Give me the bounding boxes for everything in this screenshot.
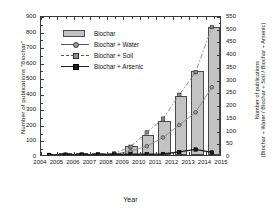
data-point-circle [194,110,198,114]
y-axis-right-minor-tick [219,23,221,24]
x-axis-minor-tick [82,154,83,156]
y-axis-left-tick-label: 800 [6,29,36,35]
y-axis-right-tick [217,17,220,18]
x-axis-tick [173,152,174,155]
y-axis-left-tick-label: 100 [6,137,36,143]
y-axis-left-tick-label: 400 [6,91,36,97]
x-axis-tick [41,152,42,155]
y-axis-right-tick-label: 200 [226,102,256,108]
legend-item-biochar-soil: Biochar + Soil [60,50,143,61]
x-axis-top-tick [123,17,124,20]
y-axis-right-tick-label: 350 [226,64,256,70]
x-axis-top-minor-tick [99,17,100,19]
x-axis-tick [206,152,207,155]
y-axis-left-minor-tick [41,134,43,135]
y-axis-right-tick-label: 150 [226,115,256,121]
y-axis-right-tick [217,68,220,69]
y-axis-left-tick [41,48,44,49]
y-axis-left-tick [41,126,44,127]
y-axis-right-tick [217,55,220,56]
y-axis-left-tick-label: 600 [6,60,36,66]
y-axis-left-minor-tick [41,56,43,57]
y-axis-right-tick [217,42,220,43]
x-axis-top-minor-tick [214,17,215,19]
x-axis-minor-tick [181,154,182,156]
y-axis-right-minor-tick [219,125,221,126]
legend-item-biochar: Biochar [60,28,143,39]
y-axis-right-minor-tick [219,151,221,152]
x-axis-minor-tick [148,154,149,156]
y-axis-right-tick-label: 100 [226,128,256,134]
x-axis-top-tick [189,17,190,20]
y-axis-left-tick-label: 900 [6,13,36,19]
legend-label-biochar-water: Biochar + Water [94,40,139,49]
y-axis-left-tick [41,110,44,111]
data-point-square [210,25,213,28]
x-axis-tick [123,152,124,155]
circle-marker-icon [73,42,79,48]
y-axis-right-minor-tick [219,138,221,139]
data-point-square [161,117,164,120]
chart-figure: Number of publications "Biochar" Number … [0,0,276,217]
y-axis-right-tick-label: 300 [226,77,256,83]
filled-square-marker-icon [73,64,79,70]
y-axis-right-tick-label: 250 [226,89,256,95]
y-axis-right-minor-tick [219,36,221,37]
x-axis-top-tick [156,17,157,20]
data-point-circle [177,123,181,127]
data-point-square [129,145,132,148]
x-axis-minor-tick [99,154,100,156]
x-axis-top-tick [41,17,42,20]
x-axis-top-minor-tick [148,17,149,19]
x-axis-minor-tick [66,154,67,156]
y-axis-left-minor-tick [41,103,43,104]
y-axis-left-tick-label: 300 [6,106,36,112]
y-axis-right-tick [217,144,220,145]
y-axis-left-tick-label: 500 [6,75,36,81]
legend-label-biochar-soil: Biochar + Soil [94,51,133,60]
x-axis-top-minor-tick [132,17,133,19]
x-axis-top-tick [74,17,75,20]
y-axis-left-tick [41,33,44,34]
x-axis-tick [74,152,75,155]
x-axis-top-minor-tick [164,17,165,19]
x-axis-tick [189,152,190,155]
y-axis-right-tick [217,30,220,31]
x-axis-top-tick [90,17,91,20]
x-axis-top-tick [173,17,174,20]
x-axis-top-tick [206,17,207,20]
y-axis-left-minor-tick [41,149,43,150]
x-axis-top-tick [140,17,141,20]
y-axis-left-minor-tick [41,118,43,119]
y-axis-left-tick [41,141,44,142]
y-axis-left-tick [41,79,44,80]
y-axis-left-minor-tick [41,40,43,41]
y-axis-left-tick [41,64,44,65]
y-axis-left-minor-tick [41,25,43,26]
y-axis-right-minor-tick [219,62,221,63]
y-axis-right-tick-label: 550 [226,13,256,19]
legend-key-line-dashdot-square [60,51,90,60]
legend-label-biochar: Biochar [94,29,115,38]
y-axis-right-minor-tick [219,100,221,101]
x-axis-top-minor-tick [181,17,182,19]
y-axis-right-tick [217,106,220,107]
x-axis-minor-tick [132,154,133,156]
data-point-square [194,71,197,74]
x-axis-minor-tick [197,154,198,156]
x-axis-top-tick [57,17,58,20]
y-axis-left-minor-tick [41,71,43,72]
x-axis-minor-tick [49,154,50,156]
plot-area: Biochar Biochar + Water Biochar + Soil [40,16,221,156]
y-axis-right-minor-tick [219,87,221,88]
data-point-square [178,93,181,96]
x-axis-tick [156,152,157,155]
x-axis-top-minor-tick [115,17,116,19]
y-axis-right-tick [217,93,220,94]
y-axis-right-minor-tick [219,74,221,75]
x-axis-title: Year [38,196,223,203]
x-axis-top-minor-tick [197,17,198,19]
x-axis-top-tick [107,17,108,20]
data-point-square-filled [194,148,197,151]
y-axis-right-title-line2: (Biochar + Water / Biochar + Soil / Bioc… [260,15,266,165]
